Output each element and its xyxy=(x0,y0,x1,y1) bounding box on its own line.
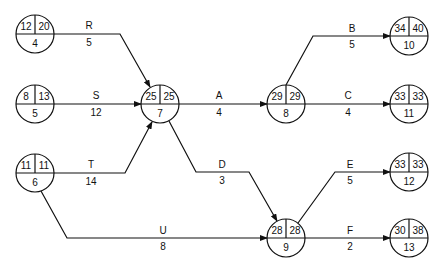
node-10-id: 10 xyxy=(403,40,415,51)
activity-name-B: B xyxy=(349,23,356,34)
node-9-lf: 28 xyxy=(289,225,301,236)
node-5-lf: 13 xyxy=(38,91,50,102)
node-13-lf: 38 xyxy=(412,225,424,236)
activity-name-S: S xyxy=(93,90,100,101)
node-7-es: 25 xyxy=(145,91,157,102)
node-7-id: 7 xyxy=(157,108,163,119)
network-diagram: R 5 S 12 T 14 U 8 A 4 D 3 B 5 C 4 E 5 F … xyxy=(0,0,444,269)
activity-name-D: D xyxy=(218,159,225,170)
activity-name-U: U xyxy=(159,225,166,236)
node-8-id: 8 xyxy=(283,108,289,119)
activity-duration-A: 4 xyxy=(216,107,222,118)
node-12-es: 33 xyxy=(394,159,406,170)
node-5-id: 5 xyxy=(32,108,38,119)
node-13-es: 30 xyxy=(394,225,406,236)
node-8-lf: 29 xyxy=(289,91,301,102)
node-11-lf: 33 xyxy=(412,91,424,102)
activity-arrow-B xyxy=(286,36,390,85)
activity-name-F: F xyxy=(347,225,353,236)
node-12-id: 12 xyxy=(403,176,415,187)
node-6-id: 6 xyxy=(32,177,38,188)
node-4-es: 12 xyxy=(20,21,32,32)
node-10-es: 34 xyxy=(394,23,406,34)
node-13-id: 13 xyxy=(403,242,415,253)
activity-name-R: R xyxy=(85,20,92,31)
node-12-lf: 33 xyxy=(412,159,424,170)
event-nodes xyxy=(16,15,428,257)
activity-labels: R 5 S 12 T 14 U 8 A 4 D 3 B 5 C 4 E 5 F … xyxy=(85,20,355,252)
activity-arrow-U xyxy=(41,191,267,238)
activity-name-C: C xyxy=(344,90,351,101)
activity-name-A: A xyxy=(216,90,223,101)
node-9-id: 9 xyxy=(283,242,289,253)
activity-name-T: T xyxy=(88,159,94,170)
activity-duration-T: 14 xyxy=(85,176,97,187)
activity-arrow-R xyxy=(54,34,150,87)
node-5-es: 8 xyxy=(23,91,29,102)
activity-arrow-E xyxy=(298,172,390,223)
node-11-id: 11 xyxy=(404,108,415,119)
node-6-lf: 11 xyxy=(39,160,50,171)
activity-duration-U: 8 xyxy=(160,241,166,252)
node-11-es: 33 xyxy=(394,91,406,102)
node-6-es: 11 xyxy=(21,160,32,171)
node-texts: 12 20 4 8 13 5 11 11 6 25 25 7 29 29 8 2… xyxy=(20,21,424,253)
activity-duration-D: 3 xyxy=(219,175,225,186)
activity-duration-S: 12 xyxy=(90,107,102,118)
diagram-svg: R 5 S 12 T 14 U 8 A 4 D 3 B 5 C 4 E 5 F … xyxy=(0,0,444,269)
activity-duration-R: 5 xyxy=(86,37,92,48)
node-9-es: 28 xyxy=(271,225,283,236)
activity-duration-F: 2 xyxy=(347,241,353,252)
activity-arrow-D xyxy=(169,121,277,221)
activity-duration-E: 5 xyxy=(347,175,353,186)
node-7-lf: 25 xyxy=(163,91,175,102)
activity-name-E: E xyxy=(347,159,354,170)
activity-duration-B: 5 xyxy=(349,39,355,50)
node-4-lf: 20 xyxy=(38,21,50,32)
activity-arrow-T xyxy=(54,122,152,173)
activity-duration-C: 4 xyxy=(345,107,351,118)
node-4-id: 4 xyxy=(32,38,38,49)
node-8-es: 29 xyxy=(271,91,283,102)
node-10-lf: 40 xyxy=(412,23,424,34)
